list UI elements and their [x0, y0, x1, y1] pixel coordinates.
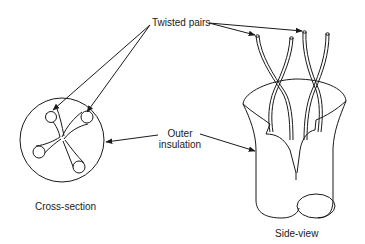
wire-lobes: [33, 106, 93, 173]
arrow-twisted-pairs-to-cross-left: [53, 25, 150, 110]
twisted-pair-diagram: Twisted pairs Outer insulation Cross-sec…: [0, 0, 365, 244]
jacket-top-rim: [243, 79, 346, 104]
label-outer-insulation: Outer insulation: [158, 128, 202, 150]
label-outer-insulation-line2: insulation: [158, 139, 202, 150]
label-cross-section: Cross-section: [35, 201, 96, 212]
label-outer-insulation-line1: Outer: [158, 128, 202, 139]
label-side-view: Side-view: [275, 228, 318, 239]
jacket-bottom-ellipse: [297, 194, 335, 218]
side-view: [243, 31, 346, 218]
jacket-left-edge: [243, 104, 299, 218]
arrow-twisted-pairs-to-cross-right: [87, 25, 150, 112]
arrow-insulation-to-side: [200, 134, 255, 151]
cross-section-view: [20, 98, 104, 182]
outer-insulation-circle: [20, 98, 104, 182]
label-twisted-pairs: Twisted pairs: [152, 17, 210, 28]
twisted-pair-1: [256, 35, 294, 140]
arrow-insulation-to-cross: [106, 135, 158, 142]
